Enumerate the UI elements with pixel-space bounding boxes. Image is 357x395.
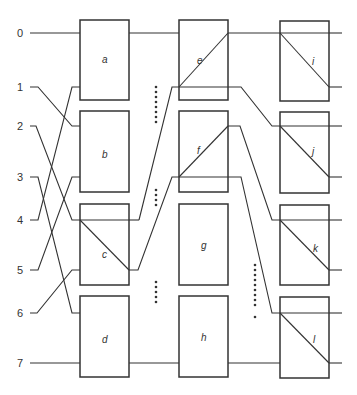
row-label-3: 3 <box>13 171 27 183</box>
box-j <box>280 112 329 193</box>
box-label-l: l <box>313 335 315 345</box>
row-label-6: 6 <box>13 307 27 319</box>
box-label-a: a <box>102 55 108 65</box>
ellipsis-bc <box>155 189 158 207</box>
box-label-j: j <box>312 147 314 157</box>
wire-2-in <box>30 126 80 220</box>
wire-5-in <box>30 177 80 270</box>
box-label-d: d <box>102 335 108 345</box>
wire-c-f <box>129 177 179 270</box>
ellipsis-cd <box>155 281 158 304</box>
box-label-f: f <box>197 146 200 156</box>
ellipsis-kl <box>254 264 257 319</box>
box-label-b: b <box>102 150 108 160</box>
middle-wires <box>129 33 179 363</box>
wire-1-in <box>30 87 80 126</box>
row-label-0: 0 <box>13 27 27 39</box>
wire-3-in <box>30 177 80 313</box>
network-diagram: 0 1 2 3 4 5 6 7 a b c d e f g h i j k l <box>0 0 357 395</box>
row-label-5: 5 <box>13 264 27 276</box>
box-label-k: k <box>313 244 318 254</box>
box-label-i: i <box>312 57 314 67</box>
column-2 <box>179 20 228 377</box>
box-label-h: h <box>201 333 207 343</box>
box-label-e: e <box>197 56 203 66</box>
row-label-1: 1 <box>13 81 27 93</box>
wire-f-k <box>228 126 280 220</box>
column-3 <box>280 21 329 378</box>
wire-6-in <box>30 270 80 313</box>
box-label-c: c <box>102 250 107 260</box>
input-wires <box>30 33 80 363</box>
ellipsis-ab <box>155 86 158 124</box>
row-label-4: 4 <box>13 214 27 226</box>
output-wires <box>329 33 342 363</box>
network-canvas <box>0 0 357 395</box>
row-label-2: 2 <box>13 120 27 132</box>
box-label-g: g <box>201 241 207 251</box>
column-1 <box>80 20 129 377</box>
wire-b-e <box>139 87 179 220</box>
row-label-7: 7 <box>13 357 27 369</box>
